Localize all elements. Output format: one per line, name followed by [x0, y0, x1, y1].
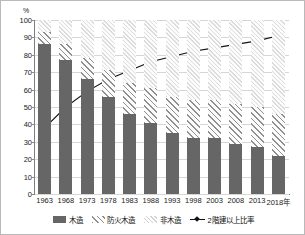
- bar-segment: [102, 70, 115, 96]
- x-axis-tick-label: 1963: [36, 196, 53, 205]
- legend-swatch-icon: [190, 216, 205, 223]
- y-axis-tickmark: [32, 194, 35, 195]
- bar-segment: [272, 114, 285, 156]
- legend-label: 防火木造: [107, 214, 135, 225]
- bar-segment: [229, 104, 242, 144]
- legend-label: 木造: [69, 214, 83, 225]
- bar-stack: [123, 20, 136, 194]
- bar-segment: [144, 123, 157, 194]
- y-axis-tickmark: [32, 177, 35, 178]
- y-axis-tick-label: 10: [10, 172, 32, 181]
- bar-segment: [229, 144, 242, 194]
- bar-segment: [102, 97, 115, 194]
- bar-segment: [208, 138, 221, 194]
- bar-segment: [251, 20, 264, 107]
- bar-stack: [272, 20, 285, 194]
- bar-segment: [123, 83, 136, 114]
- bar-segment: [38, 20, 51, 32]
- bar-segment: [251, 147, 264, 194]
- legend-item[interactable]: 2階建以上比率: [190, 214, 254, 225]
- bar-segment: [144, 20, 157, 88]
- y-axis-tickmark: [32, 72, 35, 73]
- y-axis-tickmark: [32, 124, 35, 125]
- bar-segment: [166, 133, 179, 194]
- bar-segment: [38, 32, 51, 44]
- chart-container: % 0102030405060708090100 196319681973197…: [0, 0, 305, 235]
- bar-stack: [251, 20, 264, 194]
- x-axis-tick-label: 2008: [228, 196, 245, 205]
- y-axis-unit-label: %: [23, 7, 29, 14]
- x-axis-tick-label: 1983: [121, 196, 138, 205]
- bar-stack: [187, 20, 200, 194]
- bar-stack: [166, 20, 179, 194]
- legend-item[interactable]: 木造: [53, 214, 83, 225]
- bar-segment: [208, 100, 221, 138]
- bar-segment: [123, 20, 136, 83]
- y-axis-tick-label: 40: [10, 120, 32, 129]
- legend-swatch-icon: [92, 216, 105, 223]
- plot-area: [34, 20, 289, 194]
- x-axis-tick-label: 1973: [79, 196, 96, 205]
- legend-swatch-icon: [53, 216, 66, 223]
- bar-segment: [208, 20, 221, 100]
- y-axis-tick-label: 70: [10, 68, 32, 77]
- bar-stack: [229, 20, 242, 194]
- y-axis-tick-label: 30: [10, 137, 32, 146]
- bar-stack: [59, 20, 72, 194]
- bar-stack: [102, 20, 115, 194]
- gridline: [34, 194, 289, 195]
- bar-segment: [166, 97, 179, 134]
- x-axis-tick-label: 1968: [58, 196, 75, 205]
- bar-segment: [272, 156, 285, 194]
- y-axis-tickmark: [32, 142, 35, 143]
- bar-segment: [123, 114, 136, 194]
- y-axis-tick-label: 100: [10, 16, 32, 25]
- chart-legend: 木造防火木造非木造2階建以上比率: [1, 214, 305, 225]
- legend-swatch-icon: [144, 216, 157, 223]
- bar-segment: [102, 20, 115, 70]
- y-axis-tickmark: [32, 20, 35, 21]
- x-axis-tick-label: 1978: [100, 196, 117, 205]
- y-axis-tick-label: 0: [10, 190, 32, 199]
- y-axis-tick-label: 60: [10, 85, 32, 94]
- y-axis-tickmark: [32, 107, 35, 108]
- bar-segment: [144, 88, 157, 123]
- y-axis-tickmark: [32, 90, 35, 91]
- x-axis-tick-labels: 1963196819731978198319881993199820032008…: [34, 196, 289, 208]
- x-axis-tick-label: 1998: [185, 196, 202, 205]
- bar-segment: [187, 100, 200, 138]
- y-axis-tickmark: [32, 159, 35, 160]
- y-axis-tickmark: [32, 55, 35, 56]
- x-axis-tick-label: 1988: [143, 196, 160, 205]
- bar-segment: [59, 20, 72, 44]
- legend-label: 非木造: [160, 214, 181, 225]
- legend-item[interactable]: 防火木造: [92, 214, 136, 225]
- bar-segment: [81, 79, 94, 194]
- bar-stack: [38, 20, 51, 194]
- y-axis-tickmark: [32, 37, 35, 38]
- x-axis-tick-label: 2013: [249, 196, 266, 205]
- bar-segment: [59, 44, 72, 60]
- y-axis-tick-label: 20: [10, 155, 32, 164]
- bar-segment: [166, 20, 179, 97]
- legend-item[interactable]: 非木造: [144, 214, 181, 225]
- x-axis-tick-label: 2018年: [267, 196, 291, 207]
- y-axis-tick-label: 90: [10, 33, 32, 42]
- x-axis-tick-label: 1993: [164, 196, 181, 205]
- y-axis-tick-label: 50: [10, 103, 32, 112]
- bar-stack: [208, 20, 221, 194]
- bar-stack: [81, 20, 94, 194]
- bar-segment: [187, 20, 200, 100]
- y-axis-tick-label: 80: [10, 50, 32, 59]
- bar-segment: [272, 20, 285, 114]
- bar-segment: [59, 60, 72, 194]
- legend-label: 2階建以上比率: [207, 214, 253, 225]
- y-axis-tick-labels: 0102030405060708090100: [1, 20, 32, 194]
- bar-segment: [81, 20, 94, 58]
- bar-segment: [229, 20, 242, 104]
- x-axis-tick-label: 2003: [206, 196, 223, 205]
- bar-segment: [81, 58, 94, 79]
- bar-segment: [38, 44, 51, 194]
- bar-segment: [251, 107, 264, 147]
- bar-stack: [144, 20, 157, 194]
